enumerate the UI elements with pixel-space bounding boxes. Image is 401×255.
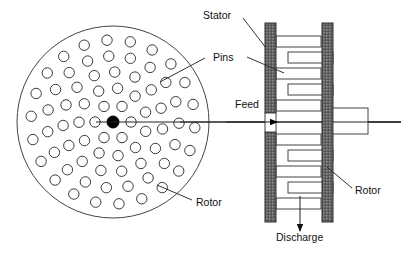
rotor-pin-hole bbox=[143, 173, 153, 183]
stator-bar-lower bbox=[265, 132, 276, 222]
rotor-pin-hole bbox=[137, 194, 147, 204]
rotor-pin-hole bbox=[74, 117, 84, 127]
rotor-pin-hole bbox=[125, 37, 135, 47]
rotor-pin-hole bbox=[50, 84, 60, 94]
rotor-pin-hole bbox=[64, 140, 74, 150]
rotor-pin-hole bbox=[140, 126, 150, 136]
rotor-pin-hole bbox=[50, 175, 60, 185]
stator-pin-bar bbox=[276, 198, 321, 209]
rotor-pin-hole bbox=[102, 35, 112, 45]
rotor-pin-hole bbox=[130, 142, 140, 152]
stator-pin-bar bbox=[276, 100, 321, 111]
rotor-pin-hole bbox=[110, 67, 120, 77]
rotor-pin-hole bbox=[101, 182, 111, 192]
rotor-pin-hole bbox=[147, 45, 157, 55]
rotor-pin-hole bbox=[150, 143, 160, 153]
rotor-pin-hole bbox=[89, 70, 99, 80]
rotor-pin-hole bbox=[123, 181, 133, 191]
rotor-pin-hole bbox=[49, 147, 59, 157]
rotor-pin-hole bbox=[116, 166, 126, 176]
rotor-pin-hole bbox=[104, 51, 114, 61]
stator-label: Stator bbox=[203, 9, 232, 21]
stator-bar-upper bbox=[265, 23, 276, 113]
rotor-pin-hole bbox=[43, 105, 53, 115]
rotor-pin-hole bbox=[130, 72, 140, 82]
rotor-pin-hole bbox=[77, 156, 87, 166]
stator-pin-bar bbox=[276, 134, 321, 145]
rotor-pin-hole bbox=[82, 56, 92, 66]
rotor-pin-hole bbox=[170, 139, 180, 149]
pin-mill-diagram: Stator Pins Feed Discharge Rotor Rotor bbox=[0, 0, 401, 255]
rotor-pin-hole bbox=[62, 165, 72, 175]
rotor-pin-hole bbox=[180, 77, 190, 87]
rotor-pin-hole bbox=[72, 82, 82, 92]
rotor-pin-hole bbox=[69, 189, 79, 199]
rotor-pin-hole bbox=[96, 165, 106, 175]
rotor-pin-hole bbox=[94, 148, 104, 158]
rotor-pin-hole bbox=[113, 150, 123, 160]
rotor-pin-hole bbox=[43, 126, 53, 136]
rotor-pin-hole bbox=[156, 103, 166, 113]
rotor-pin-hole bbox=[99, 101, 109, 111]
rotor-pin-hole bbox=[190, 123, 200, 133]
rotor-pin-hole bbox=[185, 145, 195, 155]
rotor-pin-hole bbox=[91, 197, 101, 207]
rotor-pin-hole bbox=[174, 166, 184, 176]
rotor-pin-hole bbox=[145, 62, 155, 72]
rotor-pin-hole bbox=[80, 177, 90, 187]
diagram-canvas: Stator Pins Feed Discharge Rotor Rotor bbox=[0, 0, 401, 255]
rotor-pin-hole bbox=[159, 158, 169, 168]
rotor-pin-hole bbox=[93, 86, 103, 96]
rotor-pin-hole bbox=[140, 107, 150, 117]
rotor-front-label: Rotor bbox=[196, 196, 222, 208]
rotor-pin-hole bbox=[125, 53, 135, 63]
stator-pin-bar bbox=[276, 166, 321, 177]
rotor-bar-side bbox=[322, 23, 333, 222]
rotor-pin-hole bbox=[28, 134, 38, 144]
rotor-pin-hole bbox=[174, 118, 184, 128]
rotor-pin-hole bbox=[130, 91, 140, 101]
rotor-pin-hole bbox=[117, 101, 127, 111]
rotor-pin-hole bbox=[114, 199, 124, 209]
discharge-label: Discharge bbox=[276, 231, 323, 243]
rotor-pin-hole bbox=[61, 100, 71, 110]
rotor-pin-hole bbox=[79, 99, 89, 109]
pins-label: Pins bbox=[213, 51, 233, 63]
rotor-pin-hole bbox=[79, 40, 89, 50]
rotor-pin-hole bbox=[99, 132, 109, 142]
rotor-pin-hole bbox=[188, 99, 198, 109]
rotor-pin-hole bbox=[31, 88, 41, 98]
stator-pin-bar bbox=[276, 68, 321, 79]
shaft-hub-block bbox=[333, 108, 368, 134]
rotor-pin-hole bbox=[64, 67, 74, 77]
rotor-pin-hole bbox=[42, 68, 52, 78]
rotor-pin-hole bbox=[36, 156, 46, 166]
rotor-pin-hole bbox=[157, 124, 167, 134]
stator-pin-bar bbox=[276, 36, 321, 47]
rotor-pin-hole bbox=[26, 111, 36, 121]
rotor-pin-hole bbox=[59, 51, 69, 61]
rotor-pin-hole bbox=[136, 158, 146, 168]
rotor-pin-hole bbox=[171, 97, 181, 107]
rotor-pin-hole bbox=[58, 120, 68, 130]
rotor-pin-hole bbox=[79, 135, 89, 145]
feed-label: Feed bbox=[235, 98, 259, 110]
rotor-pin-hole bbox=[166, 59, 176, 69]
rotor-side-label: Rotor bbox=[355, 184, 381, 196]
rotor-pin-hole bbox=[146, 85, 156, 95]
rotor-pin-hole bbox=[117, 132, 127, 142]
rotor-pin-hole bbox=[112, 83, 122, 93]
stator-leader-line bbox=[243, 18, 266, 48]
